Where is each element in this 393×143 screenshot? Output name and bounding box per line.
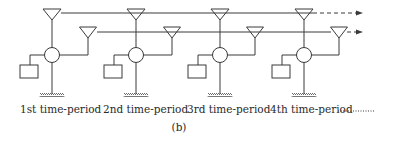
ground-icon: [208, 94, 232, 98]
ground-icon: [40, 94, 64, 98]
node-circle-icon: [45, 48, 60, 63]
ground-hatch-line: [292, 96, 316, 97]
storage-square-icon: [20, 65, 38, 78]
ground-hatch-line: [40, 94, 64, 95]
node-circle-icon: [297, 48, 312, 63]
node-circle-icon: [213, 48, 228, 63]
period-label: 3rd time-period: [187, 103, 271, 115]
period-label: 1st time-period: [20, 103, 102, 115]
period-label: 2nd time-period: [103, 103, 188, 115]
period-3: 3rd time-period: [187, 9, 271, 115]
lower-antenna-icon: [80, 27, 97, 38]
lower-arrow-icon: [356, 30, 363, 35]
period-4: 4th time-period: [270, 9, 353, 115]
storage-square-icon: [104, 65, 122, 78]
ground-hatch-line: [292, 94, 316, 95]
storage-branch-line: [30, 55, 45, 65]
lower-antenna-icon: [331, 27, 348, 38]
top-antenna-icon: [211, 9, 229, 20]
time-period-diagram: 1st time-period2nd time-period3rd time-p…: [0, 0, 393, 143]
ground-hatch-line: [208, 94, 232, 95]
ground-icon: [124, 94, 148, 98]
ground-icon: [292, 94, 316, 98]
ground-hatch-line: [40, 96, 64, 97]
top-antenna-icon: [127, 9, 145, 20]
caption: (b): [172, 121, 187, 133]
period-label: 4th time-period: [270, 103, 353, 115]
ground-hatch-line: [208, 96, 232, 97]
node-circle-icon: [129, 48, 144, 63]
lower-antenna-feed-line: [60, 38, 89, 55]
storage-branch-line: [198, 55, 213, 65]
storage-square-icon: [188, 65, 206, 78]
storage-square-icon: [272, 65, 290, 78]
top-antenna-icon: [295, 9, 313, 20]
storage-branch-line: [114, 55, 129, 65]
top-arrow-icon: [356, 11, 363, 16]
period-1: 1st time-period: [20, 9, 102, 115]
lower-antenna-feed-line: [144, 38, 173, 55]
period-2: 2nd time-period: [103, 9, 188, 115]
ground-hatch-line: [124, 94, 148, 95]
lower-antenna-feed-line: [312, 38, 340, 55]
storage-branch-line: [282, 55, 297, 65]
lower-antenna-feed-line: [228, 38, 256, 55]
top-antenna-icon: [43, 9, 61, 20]
ground-hatch-line: [124, 96, 148, 97]
